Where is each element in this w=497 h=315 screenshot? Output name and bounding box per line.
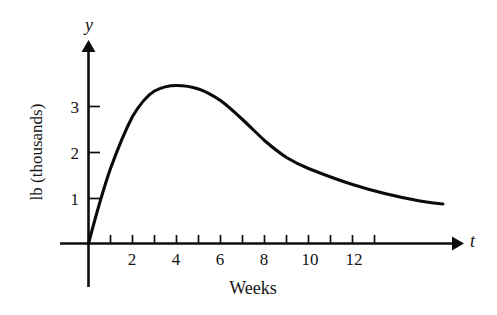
y-axis-ticks xyxy=(89,107,101,199)
x-tick-label-2: 2 xyxy=(128,251,137,268)
x-tick-label-4: 4 xyxy=(172,251,181,268)
x-axis-variable-label: t xyxy=(470,232,475,250)
y-tick-label-2: 2 xyxy=(71,145,80,162)
graph-figure: y t lb (thousands) Weeks 1 2 3 2 4 6 8 1… xyxy=(0,0,497,315)
y-tick-label-3: 3 xyxy=(71,99,80,116)
x-tick-label-12: 12 xyxy=(346,251,363,268)
x-tick-label-10: 10 xyxy=(302,251,319,268)
y-axis-arrowhead xyxy=(82,40,96,52)
x-axis-title: Weeks xyxy=(229,279,277,297)
y-tick-label-1: 1 xyxy=(71,191,80,208)
x-axis-arrowhead xyxy=(452,237,464,251)
y-axis-title: lb (thousands) xyxy=(28,104,45,201)
x-tick-label-6: 6 xyxy=(216,251,225,268)
y-axis-variable-label: y xyxy=(85,16,93,34)
x-tick-label-8: 8 xyxy=(260,251,269,268)
data-curve xyxy=(89,86,444,244)
